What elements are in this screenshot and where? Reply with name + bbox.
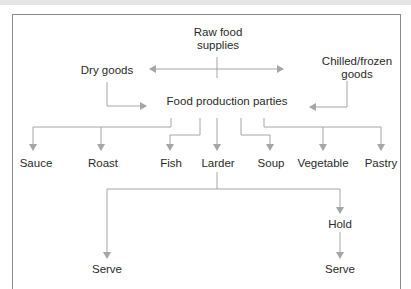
node-dry-goods: Dry goods — [81, 64, 133, 77]
node-vegetable: Vegetable — [297, 157, 348, 170]
node-pastry: Pastry — [365, 157, 398, 170]
node-serve-right: Serve — [325, 263, 355, 276]
node-sauce: Sauce — [20, 157, 53, 170]
node-fish: Fish — [160, 157, 182, 170]
node-hold: Hold — [328, 218, 352, 231]
node-label-line: supplies — [194, 39, 243, 52]
node-label-line: goods — [322, 68, 392, 81]
node-serve-left: Serve — [92, 263, 122, 276]
node-raw-food-supplies: Raw food supplies — [194, 26, 243, 52]
node-food-production-parties: Food production parties — [167, 95, 288, 108]
node-chilled-frozen-goods: Chilled/frozen goods — [322, 55, 392, 81]
node-soup: Soup — [258, 157, 285, 170]
node-larder: Larder — [201, 157, 234, 170]
node-label-line: Raw food — [194, 26, 243, 39]
node-label-line: Chilled/frozen — [322, 55, 392, 68]
node-roast: Roast — [88, 157, 118, 170]
